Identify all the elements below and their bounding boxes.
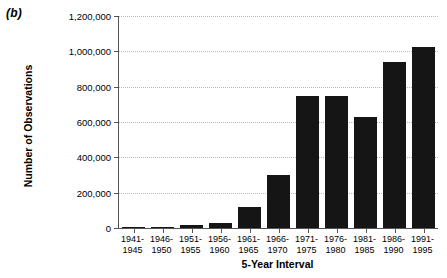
x-axis-tick-label-line2: 1960 [205,245,234,256]
x-axis-tick-label-line1: 1981- [350,234,379,245]
bar-cell [148,16,177,228]
x-axis-tick [308,228,309,233]
bar-cell [380,16,409,228]
x-axis-tick-label: 1991-1995 [408,234,437,255]
x-axis-tick-label: 1966-1970 [263,234,292,255]
bar-cell [206,16,235,228]
bar [383,62,406,228]
x-axis-tick-label-line1: 1961- [234,234,263,245]
x-axis-tick-label-line1: 1966- [263,234,292,245]
x-axis-tick-label: 1981-1985 [350,234,379,255]
bar [238,207,261,228]
x-axis-tick [395,228,396,233]
x-axis-tick-label-line1: 1951- [176,234,205,245]
x-axis-tick-label-line2: 1990 [379,245,408,256]
x-axis-tick [163,228,164,233]
bar-cell [119,16,148,228]
x-axis-tick-label-line1: 1976- [321,234,350,245]
y-axis-tick-label: 1,000,000 [69,46,111,57]
bar [325,96,348,228]
x-axis-tick-label: 1961-1965 [234,234,263,255]
bar [354,117,377,228]
bar-cell [351,16,380,228]
x-axis-tick-label-line1: 1956- [205,234,234,245]
x-axis-tick-label-line1: 1991- [408,234,437,245]
x-axis-tick [366,228,367,233]
x-axis-title: 5-Year Interval [118,258,437,270]
x-axis-tick-label: 1941-1945 [118,234,147,255]
y-axis-tick-label: 1,200,000 [69,11,111,22]
bar-cell [264,16,293,228]
y-axis-tick-label: 600,000 [77,117,111,128]
y-axis-title: Number of Observations [22,36,34,216]
figure-panel-b: (b) Number of Observations 0200,000400,0… [0,0,447,278]
x-axis-tick-labels: 1941-19451946-19501951-19551956-19601961… [118,234,437,255]
x-axis-tick [134,228,135,233]
bar [267,175,290,228]
bar [412,47,435,228]
y-axis-tick-label: 200,000 [77,187,111,198]
x-axis-tick-label: 1986-1990 [379,234,408,255]
x-axis-tick-label-line2: 1995 [408,245,437,256]
x-axis-tick-label: 1976-1980 [321,234,350,255]
x-axis-tick-label: 1971-1975 [292,234,321,255]
bar-cell [235,16,264,228]
y-axis-tick-label: 800,000 [77,81,111,92]
bar [296,96,319,228]
x-axis-tick [279,228,280,233]
x-axis-tick-label-line1: 1946- [147,234,176,245]
bar-cell [177,16,206,228]
x-axis-tick-label: 1951-1955 [176,234,205,255]
y-axis-tick-label: 0 [106,223,111,234]
plot-area: 0200,000400,000600,000800,0001,000,0001,… [118,16,438,229]
bar-series [119,16,438,228]
x-axis-tick-label-line2: 1945 [118,245,147,256]
x-axis-tick-label-line2: 1950 [147,245,176,256]
x-axis-tick-label-line2: 1980 [321,245,350,256]
x-axis-tick-label-line1: 1971- [292,234,321,245]
x-axis-tick-label-line2: 1955 [176,245,205,256]
bar-cell [293,16,322,228]
x-axis-tick-label: 1956-1960 [205,234,234,255]
x-axis-tick-label: 1946-1950 [147,234,176,255]
x-axis-tick [192,228,193,233]
x-axis-tick-label-line1: 1941- [118,234,147,245]
x-axis-tick [337,228,338,233]
y-axis-tick [114,228,119,229]
x-axis-tick-label-line2: 1975 [292,245,321,256]
panel-label: (b) [6,6,22,20]
bar-cell [409,16,438,228]
x-axis-tick-label-line1: 1986- [379,234,408,245]
x-axis-tick-label-line2: 1965 [234,245,263,256]
bar-cell [322,16,351,228]
y-axis-tick-label: 400,000 [77,152,111,163]
x-axis-tick [221,228,222,233]
x-axis-tick-label-line2: 1970 [263,245,292,256]
x-axis-tick [424,228,425,233]
x-axis-tick-label-line2: 1985 [350,245,379,256]
x-axis-tick [250,228,251,233]
